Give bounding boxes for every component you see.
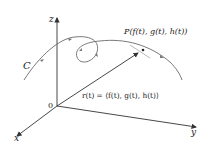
curve-direction-arrows bbox=[40, 38, 164, 62]
y-axis-label: y bbox=[190, 127, 197, 137]
y-axis bbox=[57, 106, 196, 127]
point-label: P(f(t), g(t), h(t)) bbox=[123, 27, 187, 36]
curve-c bbox=[24, 37, 182, 80]
space-curve-diagram: z x y 0 C P(f(t), g(t), h(t)) r(t) = ⟨f(… bbox=[0, 0, 213, 147]
x-axis-label: x bbox=[14, 133, 19, 143]
curve-label: C bbox=[23, 60, 31, 71]
origin-label: 0 bbox=[48, 101, 53, 110]
vector-label: r(t) = ⟨f(t), g(t), h(t)⟩ bbox=[82, 91, 159, 100]
z-axis-label: z bbox=[48, 14, 54, 24]
x-axis bbox=[17, 106, 57, 136]
point-p bbox=[142, 49, 145, 52]
